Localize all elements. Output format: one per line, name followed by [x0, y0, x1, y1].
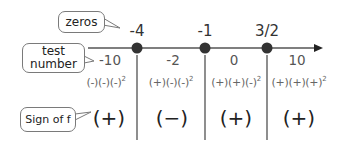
- test-number-interval-2: -2: [166, 52, 179, 68]
- sign-of-f-callout-text: Sign of f: [25, 114, 70, 126]
- sign-of-f-callout-tail: [75, 112, 91, 120]
- factor-signs-interval-3: (+)(+)(-)2: [211, 75, 261, 89]
- arrow-right-icon: [314, 44, 323, 52]
- test-number-callout-tail: [84, 56, 94, 63]
- factor-signs-interval-4: (+)(+)(+)2: [272, 75, 327, 89]
- zero-dot-minus-4: [132, 43, 143, 54]
- exponent: 2: [257, 75, 261, 83]
- exponent: 2: [121, 75, 125, 83]
- exponent: 2: [189, 75, 193, 83]
- sign-of-f-interval-4: (+): [283, 106, 315, 130]
- zero-label-minus-1: -1: [198, 22, 213, 40]
- test-number-callout-line2: number: [30, 58, 77, 71]
- zero-label-3-2: 3/2: [255, 22, 279, 40]
- zeros-callout: zeros: [58, 11, 105, 33]
- sign-of-f-callout: Sign of f: [20, 107, 76, 132]
- test-number-callout: test number: [22, 43, 85, 73]
- zero-dot-3-2: [262, 43, 273, 54]
- zero-label-minus-4: -4: [130, 22, 145, 40]
- factor-signs-text: (+)(+)(+): [272, 76, 323, 89]
- exponent: 2: [322, 75, 326, 83]
- factor-signs-interval-1: (-)(-)(-)2: [86, 75, 125, 89]
- sign-of-f-interval-3: (+): [220, 106, 252, 130]
- factor-signs-text: (+)(-)(-): [149, 76, 189, 89]
- factor-signs-text: (+)(+)(-): [211, 76, 256, 89]
- zeros-callout-text: zeros: [66, 16, 98, 29]
- factor-signs-text: (-)(-)(-): [86, 76, 121, 89]
- zero-dot-minus-1: [200, 43, 211, 54]
- test-number-interval-3: 0: [230, 52, 239, 68]
- sign-of-f-interval-1: (+): [93, 106, 125, 130]
- test-number-interval-4: 10: [288, 52, 305, 68]
- factor-signs-interval-2: (+)(-)(-)2: [149, 75, 193, 89]
- test-number-interval-1: -10: [99, 52, 121, 68]
- zeros-callout-tail: [103, 18, 120, 28]
- sign-of-f-interval-2: (−): [156, 106, 188, 130]
